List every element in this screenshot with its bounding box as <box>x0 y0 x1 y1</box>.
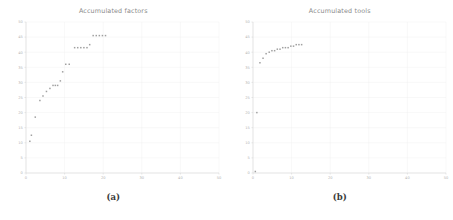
data-point <box>49 88 51 90</box>
y-tick-label-a-2: 10 <box>18 141 23 145</box>
x-tick-label-a-0: 0 <box>25 176 28 180</box>
data-point <box>65 64 67 66</box>
data-point <box>300 44 302 46</box>
x-tick-label-a-4: 40 <box>178 176 183 180</box>
panel-a: Accumulated factors 05101520253035404550… <box>0 0 227 220</box>
y-tick-label-b-1: 5 <box>247 156 249 160</box>
y-tick-label-a-6: 30 <box>18 81 23 85</box>
x-tick-label-a-5: 50 <box>217 176 222 180</box>
x-tick-label-b-5: 50 <box>443 176 448 180</box>
figure-container: Accumulated factors 05101520253035404550… <box>0 0 453 220</box>
scatter-plot-a: 0510152025303540455001020304050 <box>0 0 227 220</box>
data-point <box>68 64 70 66</box>
data-point <box>276 48 278 50</box>
y-tick-label-a-0: 0 <box>21 171 24 175</box>
data-point <box>89 44 91 46</box>
y-tick-label-a-4: 20 <box>18 111 23 115</box>
data-point <box>92 35 94 37</box>
data-point <box>96 35 98 37</box>
data-point <box>295 44 297 46</box>
data-point <box>281 47 283 49</box>
x-tick-label-b-1: 10 <box>289 176 294 180</box>
data-point <box>292 45 294 47</box>
data-point <box>31 135 33 137</box>
data-point <box>46 91 48 93</box>
scatter-plot-b: 0510152025303540455001020304050 <box>227 0 453 220</box>
y-tick-label-b-4: 20 <box>245 111 250 115</box>
data-point <box>83 47 85 49</box>
plot-area-a: 0510152025303540455001020304050 <box>0 0 227 220</box>
y-tick-label-b-10: 50 <box>245 20 250 24</box>
y-tick-label-b-3: 15 <box>245 126 250 130</box>
data-point <box>99 35 101 37</box>
data-point <box>29 141 31 143</box>
data-point <box>57 85 59 87</box>
data-point <box>105 35 107 37</box>
data-point <box>62 71 64 73</box>
y-tick-label-b-2: 10 <box>245 141 250 145</box>
y-tick-label-b-6: 30 <box>245 81 250 85</box>
y-tick-label-b-9: 45 <box>245 35 250 39</box>
data-point <box>279 48 281 50</box>
x-tick-label-b-3: 30 <box>366 176 371 180</box>
data-point <box>265 53 267 55</box>
data-point <box>254 171 256 173</box>
data-point <box>268 51 270 53</box>
data-point <box>102 35 104 37</box>
y-tick-label-a-1: 5 <box>21 156 23 160</box>
panel-caption-b: (b) <box>227 192 453 202</box>
series-a-0 <box>29 35 106 142</box>
y-tick-label-a-7: 35 <box>18 66 23 70</box>
y-tick-label-a-10: 50 <box>18 20 23 24</box>
y-tick-label-b-0: 0 <box>247 171 250 175</box>
data-point <box>290 45 292 47</box>
y-tick-label-a-9: 45 <box>18 35 23 39</box>
data-point <box>262 57 264 59</box>
data-point <box>298 44 300 46</box>
data-point <box>287 47 289 49</box>
x-tick-label-a-1: 10 <box>62 176 67 180</box>
data-point <box>39 100 41 102</box>
data-point <box>52 85 54 87</box>
y-tick-label-a-5: 25 <box>18 96 23 100</box>
data-point <box>42 95 44 97</box>
data-point <box>74 47 76 49</box>
data-point <box>60 80 62 82</box>
y-tick-label-b-5: 25 <box>245 96 250 100</box>
series-b-0 <box>254 44 302 172</box>
data-point <box>259 62 261 64</box>
x-tick-label-a-2: 20 <box>101 176 106 180</box>
data-point <box>86 47 88 49</box>
y-tick-label-a-3: 15 <box>18 126 23 130</box>
panel-caption-a: (a) <box>0 192 227 202</box>
x-tick-label-b-2: 20 <box>327 176 332 180</box>
data-point <box>55 85 57 87</box>
data-point <box>77 47 79 49</box>
data-point <box>256 112 257 114</box>
plot-area-b: 0510152025303540455001020304050 <box>227 0 453 220</box>
x-tick-label-b-4: 40 <box>405 176 410 180</box>
data-point <box>35 116 37 118</box>
data-point <box>273 50 275 52</box>
data-point <box>284 47 286 49</box>
x-tick-label-b-0: 0 <box>251 176 254 180</box>
data-point <box>80 47 82 49</box>
panel-b: Accumulated tools 0510152025303540455001… <box>227 0 453 220</box>
y-tick-label-a-8: 40 <box>18 51 23 55</box>
x-tick-label-a-3: 30 <box>140 176 145 180</box>
y-tick-label-b-8: 40 <box>245 51 250 55</box>
y-tick-label-b-7: 35 <box>245 66 250 70</box>
data-point <box>271 50 273 52</box>
